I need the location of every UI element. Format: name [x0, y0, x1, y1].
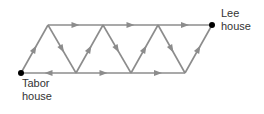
tabor-house-dot	[18, 70, 24, 76]
arrow-icon	[181, 22, 189, 28]
arrow-icon	[194, 44, 203, 54]
arrow-icon	[72, 22, 80, 28]
tabor-label-line2: house	[22, 90, 52, 103]
arrow-icon	[45, 70, 53, 76]
arrow-icon	[127, 22, 135, 28]
lee-house-dot	[209, 22, 215, 28]
lee-label-line1: Lee	[221, 7, 251, 20]
arrow-icon	[30, 44, 39, 54]
arrow-icon	[154, 70, 162, 76]
tabor-house-label: Tabor house	[22, 77, 52, 103]
arrow-icon	[85, 44, 94, 54]
lee-label-line2: house	[221, 20, 251, 33]
arrow-icon	[112, 44, 121, 54]
lee-house-label: Lee house	[221, 7, 251, 33]
arrow-icon	[140, 44, 149, 54]
tabor-label-line1: Tabor	[22, 77, 52, 90]
arrow-icon	[57, 44, 66, 54]
arrow-icon	[167, 44, 176, 54]
arrow-icon	[100, 70, 108, 76]
